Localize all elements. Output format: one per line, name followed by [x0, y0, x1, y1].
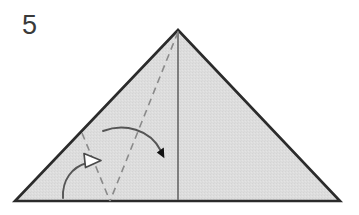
origami-figure [0, 0, 359, 215]
origami-step-diagram: 5 [0, 0, 359, 215]
step-number-label: 5 [22, 12, 37, 39]
